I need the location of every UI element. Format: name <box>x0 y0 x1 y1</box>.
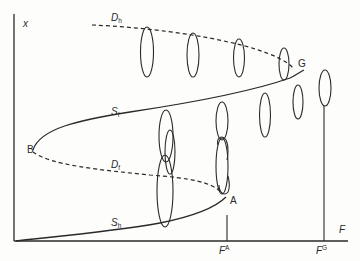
orbit-ellipse <box>293 85 303 119</box>
point-label-b: B <box>27 145 34 155</box>
point-label-a: A <box>230 196 237 206</box>
branch-sf-curve <box>33 70 304 150</box>
branch-df-sub: f <box>118 164 120 171</box>
tick-fg-sup: G <box>322 244 327 251</box>
branch-dh-curve <box>92 25 293 68</box>
y-axis-label: x <box>23 19 28 29</box>
diagram-graphics <box>0 0 360 261</box>
branch-label-df: Df <box>111 160 120 172</box>
orbit-ellipse-cluster <box>165 130 175 174</box>
branch-sh-base: S <box>111 217 118 228</box>
orbit-ellipse-g <box>319 70 331 106</box>
orbit-ellipse-cluster <box>157 155 173 227</box>
orbit-ellipse <box>216 102 228 140</box>
orbit-ellipse-cluster <box>159 110 173 162</box>
branch-sh-sub: h <box>118 222 122 229</box>
orbit-ellipse <box>279 48 289 80</box>
branch-label-sf: Sf <box>111 107 119 119</box>
tick-fa-sup: A <box>225 244 229 251</box>
point-label-g: G <box>298 59 306 69</box>
branch-sf-sub: f <box>118 111 120 118</box>
orbit-ellipse <box>141 27 154 77</box>
x-axis-label: F <box>339 225 345 235</box>
branch-label-sh: Sh <box>111 218 121 230</box>
orbit-ellipse <box>187 33 199 77</box>
bifurcation-diagram: x F FA FG B A G Dh Sf Df Sh <box>0 0 360 261</box>
branch-sf-base: S <box>111 106 118 117</box>
branch-df-curve <box>33 152 222 193</box>
orbit-ellipse-cluster <box>216 138 228 194</box>
branch-dh-sub: h <box>118 17 122 24</box>
branch-label-dh: Dh <box>111 13 122 25</box>
tick-label-fa: FA <box>219 245 229 256</box>
tick-label-fg: FG <box>316 245 327 256</box>
orbit-ellipse <box>260 93 271 137</box>
